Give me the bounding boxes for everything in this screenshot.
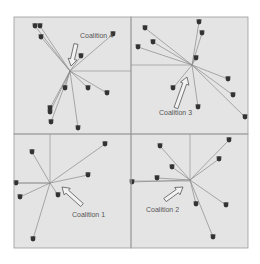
coalition-diagram: Coalition 4Coalition 3Coalition 1Coaliti… (0, 0, 260, 264)
coalition-label: Coalition 3 (159, 109, 192, 116)
coalition-label: Coalition 4 (80, 32, 113, 39)
panel-coalition-2: Coalition 2 (130, 134, 249, 248)
panel-coalition-1: Coalition 1 (14, 134, 132, 248)
coalition-label: Coalition 1 (72, 211, 105, 218)
panel-background (131, 17, 248, 134)
coalition-label: Coalition 2 (146, 206, 179, 213)
panel-background (131, 134, 248, 248)
panel-coalition-3: Coalition 3 (131, 17, 248, 134)
panel-coalition-4: Coalition 4 (14, 17, 131, 134)
